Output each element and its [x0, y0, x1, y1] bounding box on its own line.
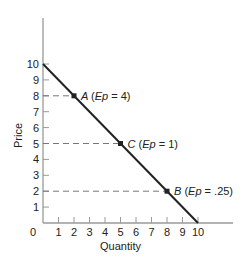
point-marker-a [72, 93, 77, 98]
x-axis-title: Quantity [100, 240, 141, 252]
x-tick-label: 6 [133, 226, 139, 238]
y-tick-label: 7 [33, 106, 39, 118]
y-tick-label: 4 [33, 153, 39, 165]
x-tick-label: 7 [148, 226, 154, 238]
x-tick-label: 9 [179, 226, 185, 238]
y-axis-title: Price [12, 123, 24, 148]
y-tick-label: 10 [27, 58, 39, 70]
y-tick-label: 1 [33, 201, 39, 213]
x-tick-label: 3 [86, 226, 92, 238]
x-tick-label: 8 [164, 226, 170, 238]
point-annotation-c: C (Ep = 1) [128, 138, 178, 150]
point-marker-c [118, 141, 123, 146]
demand-chart: 12345678910012345678910QuantityPriceA (E… [0, 0, 249, 264]
x-tick-label: 0 [30, 226, 36, 238]
y-tick-label: 3 [33, 169, 39, 181]
point-annotation-a: A (Ep = 4) [80, 90, 130, 102]
point-annotation-b: B (Ep = .25) [174, 185, 233, 197]
x-tick-label: 10 [192, 226, 204, 238]
point-marker-b [165, 189, 170, 194]
y-tick-label: 9 [33, 74, 39, 86]
y-tick-label: 6 [33, 122, 39, 134]
x-tick-label: 2 [71, 226, 77, 238]
y-tick-label: 5 [33, 138, 39, 150]
x-tick-label: 4 [102, 226, 108, 238]
x-tick-label: 5 [117, 226, 123, 238]
x-tick-label: 1 [55, 226, 61, 238]
y-tick-label: 8 [33, 90, 39, 102]
y-tick-label: 2 [33, 185, 39, 197]
